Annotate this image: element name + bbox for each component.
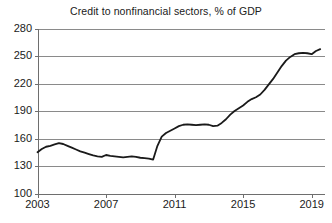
y-axis-tick-label-100: 100	[2, 188, 32, 199]
chart-plot-area	[0, 0, 332, 223]
y-axis-tick-label-130: 130	[2, 160, 32, 171]
y-axis-tick-label-190: 190	[2, 105, 32, 116]
data-series-group	[38, 49, 321, 159]
tickmarks-group	[35, 30, 313, 198]
x-axis-tick-label-2015: 2015	[223, 199, 263, 210]
x-axis-tick-label-2007: 2007	[86, 199, 126, 210]
y-axis-tick-label-250: 250	[2, 50, 32, 61]
y-axis-tick-label-220: 220	[2, 78, 32, 89]
chart-container: Credit to nonfinancial sectors, % of GDP…	[0, 0, 332, 223]
y-axis-tick-label-160: 160	[2, 133, 32, 144]
x-axis-tick-label-2011: 2011	[155, 199, 195, 210]
gridlines-group	[38, 30, 325, 167]
x-axis-tick-label-2003: 2003	[18, 199, 58, 210]
y-axis-tick-label-280: 280	[2, 23, 32, 34]
x-axis-tick-label-2019: 2019	[292, 199, 332, 210]
data-line-series-0	[38, 49, 321, 159]
